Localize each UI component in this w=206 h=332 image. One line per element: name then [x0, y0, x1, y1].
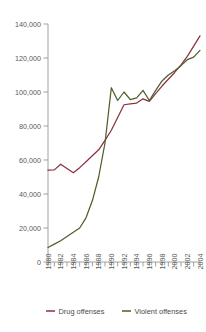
y-tick-label: 20,000: [19, 224, 41, 233]
chart-legend: Drug offensesViolent offenses: [46, 307, 187, 316]
y-axis-ticks: [44, 24, 49, 262]
y-tick-label: 140,000: [15, 20, 41, 29]
x-tick-label: 1994: [132, 254, 141, 270]
x-tick-label: 1980: [44, 254, 53, 270]
legend-label: Drug offenses: [59, 307, 105, 316]
y-tick-label: 60,000: [19, 156, 41, 165]
line-chart-figure: 020,00040,00060,00080,000100,000120,0001…: [0, 0, 206, 332]
series-line-violent-offenses: [48, 50, 200, 247]
y-tick-label: 0: [37, 258, 41, 267]
y-tick-label: 100,000: [15, 88, 41, 97]
y-tick-label: 120,000: [15, 54, 41, 63]
x-tick-label: 2002: [183, 254, 192, 270]
y-tick-label: 80,000: [19, 122, 41, 131]
x-tick-label: 1988: [94, 254, 103, 270]
x-tick-label: 1998: [158, 254, 167, 270]
legend-label: Violent offenses: [135, 307, 188, 316]
x-tick-label: 2000: [170, 254, 179, 270]
x-tick-label: 1992: [120, 254, 129, 270]
data-series-group: [48, 36, 200, 248]
x-tick-label: 1986: [82, 254, 91, 270]
x-tick-label: 1990: [107, 254, 116, 270]
y-tick-label: 40,000: [19, 190, 41, 199]
y-axis: 020,00040,00060,00080,000100,000120,0001…: [15, 20, 48, 267]
x-tick-label: 2004: [196, 254, 205, 270]
x-axis-tick-labels: 1980198219841986198819901992199419961998…: [44, 254, 205, 270]
x-tick-label: 1982: [56, 254, 65, 270]
x-tick-label: 1984: [69, 254, 78, 270]
x-tick-label: 1996: [145, 254, 154, 270]
x-axis: 1980198219841986198819901992199419961998…: [44, 254, 205, 270]
chart-canvas: 020,00040,00060,00080,000100,000120,0001…: [0, 0, 206, 332]
y-axis-tick-labels: 020,00040,00060,00080,000100,000120,0001…: [15, 20, 41, 267]
series-line-drug-offenses: [48, 36, 200, 173]
